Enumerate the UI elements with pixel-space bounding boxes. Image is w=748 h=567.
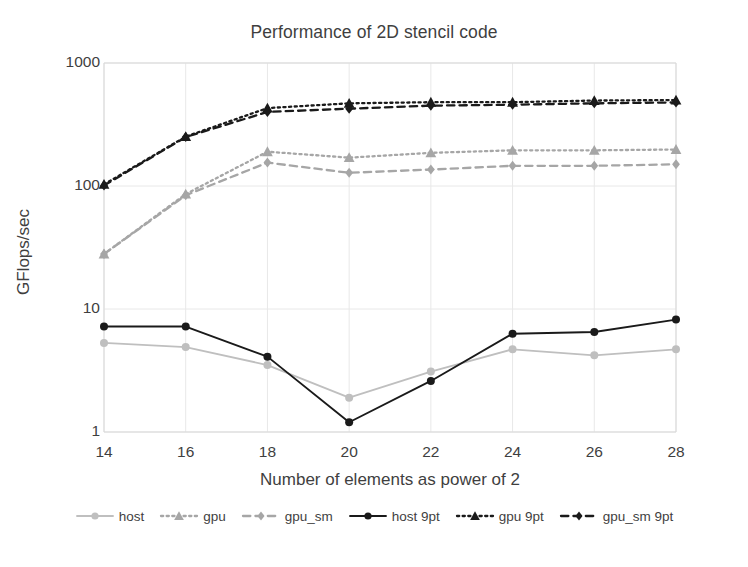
x-tick-label: 22 xyxy=(411,443,451,461)
legend-item-gpu-sm[interactable]: gpu_sm xyxy=(241,508,333,524)
data-point-marker xyxy=(182,190,190,200)
data-point-marker xyxy=(100,180,108,190)
legend-item-gpu-sm-9pt[interactable]: gpu_sm 9pt xyxy=(559,508,674,524)
series-gpu-sm-9pt xyxy=(100,97,680,190)
legend-swatch-diamond-icon xyxy=(559,508,599,524)
x-tick-label: 14 xyxy=(84,443,124,461)
data-point-marker xyxy=(264,158,272,168)
series-line xyxy=(104,163,676,254)
x-tick-label: 28 xyxy=(656,443,696,461)
series-host xyxy=(100,339,680,402)
data-point-marker xyxy=(590,98,598,108)
data-point-marker xyxy=(509,161,517,171)
data-point-marker xyxy=(182,323,190,331)
chart-container: Performance of 2D stencil code GFlops/se… xyxy=(0,0,748,567)
data-point-marker xyxy=(590,161,598,171)
data-point-marker xyxy=(590,328,598,336)
legend-swatch-circle-icon xyxy=(348,508,388,524)
data-point-marker xyxy=(345,168,353,178)
legend-item-gpu[interactable]: gpu xyxy=(159,508,226,524)
data-point-marker xyxy=(509,330,517,338)
data-point-marker xyxy=(590,351,598,359)
x-axis-label: Number of elements as power of 2 xyxy=(110,470,670,490)
legend-swatch-triangle-icon xyxy=(455,508,495,524)
legend-label: gpu_sm 9pt xyxy=(603,509,674,524)
data-point-marker xyxy=(509,345,517,353)
data-point-marker xyxy=(672,345,680,353)
legend-item-host[interactable]: host xyxy=(75,508,145,524)
series-line xyxy=(104,320,676,423)
legend-label: gpu 9pt xyxy=(499,509,544,524)
series-line xyxy=(104,102,676,185)
data-point-marker xyxy=(263,353,271,361)
data-point-marker xyxy=(100,323,108,331)
data-point-marker xyxy=(427,368,435,376)
data-point-marker xyxy=(263,361,271,369)
data-point-marker xyxy=(91,512,98,519)
legend-item-host-9pt[interactable]: host 9pt xyxy=(348,508,440,524)
data-point-marker xyxy=(672,159,680,169)
data-point-marker xyxy=(345,418,353,426)
legend-label: gpu xyxy=(203,509,226,524)
legend-swatch-circle-icon xyxy=(75,508,115,524)
x-tick-label: 24 xyxy=(493,443,533,461)
data-point-marker xyxy=(100,339,108,347)
x-tick-label: 20 xyxy=(329,443,369,461)
data-point-marker xyxy=(345,394,353,402)
data-point-marker xyxy=(575,512,582,521)
data-point-marker xyxy=(364,512,371,519)
data-point-marker xyxy=(427,165,435,175)
x-tick-label: 18 xyxy=(247,443,287,461)
x-tick-label: 26 xyxy=(574,443,614,461)
series-line xyxy=(104,343,676,398)
x-tick-label: 16 xyxy=(166,443,206,461)
legend-swatch-triangle-icon xyxy=(159,508,199,524)
data-point-marker xyxy=(672,316,680,324)
legend-swatch-diamond-icon xyxy=(241,508,281,524)
legend-label: gpu_sm xyxy=(285,509,333,524)
data-point-marker xyxy=(427,377,435,385)
legend-item-gpu-9pt[interactable]: gpu 9pt xyxy=(455,508,544,524)
data-point-marker xyxy=(257,512,264,521)
chart-legend: hostgpugpu_smhost 9ptgpu 9ptgpu_sm 9pt xyxy=(0,508,748,524)
data-point-marker xyxy=(182,343,190,351)
series-gpu-sm xyxy=(100,158,680,259)
series-host-9pt xyxy=(100,316,680,427)
legend-label: host xyxy=(119,509,145,524)
data-point-marker xyxy=(174,511,184,520)
data-point-marker xyxy=(470,511,480,520)
legend-label: host 9pt xyxy=(392,509,440,524)
